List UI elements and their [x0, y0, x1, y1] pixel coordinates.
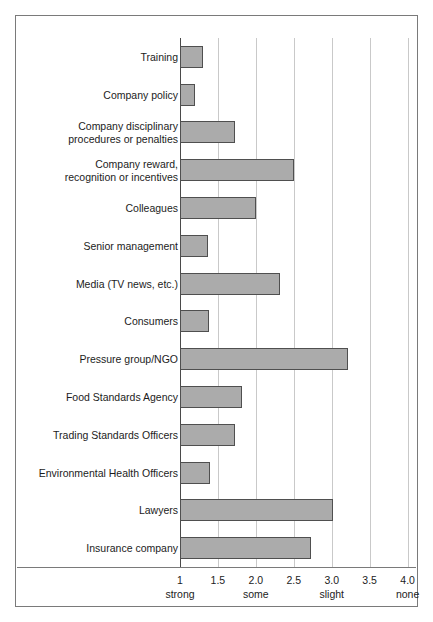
- category-label: Pressure group/NGO: [34, 353, 178, 366]
- category-label: Training: [34, 51, 178, 64]
- x-axis: 1strong1.52.0some2.53.0slight3.54.0none: [17, 567, 416, 607]
- plot-area: [180, 38, 419, 567]
- x-tick-value: 4.0: [378, 574, 433, 587]
- x-tick-word: none: [378, 587, 433, 601]
- x-tick-word: some: [226, 587, 286, 601]
- bar-series: [180, 38, 419, 567]
- bar: [180, 159, 294, 181]
- bar: [180, 84, 195, 106]
- category-label: Senior management: [34, 240, 178, 253]
- bar: [180, 348, 348, 370]
- bar: [180, 424, 235, 446]
- category-label: Food Standards Agency: [34, 391, 178, 404]
- bar: [180, 197, 256, 219]
- bar: [180, 310, 209, 332]
- category-label: Trading Standards Officers: [34, 429, 178, 442]
- category-label: Company disciplinary procedures or penal…: [34, 120, 178, 145]
- category-label: Colleagues: [34, 202, 178, 215]
- category-label: Company policy: [34, 88, 178, 101]
- category-label: Company reward, recognition or incentive…: [34, 158, 178, 183]
- category-label-column: TrainingCompany policyCompany disciplina…: [34, 38, 178, 567]
- bar: [180, 121, 235, 143]
- bar: [180, 499, 333, 521]
- bar: [180, 386, 242, 408]
- category-label: Insurance company: [34, 542, 178, 555]
- category-label: Lawyers: [34, 504, 178, 517]
- category-label: Media (TV news, etc.): [34, 277, 178, 290]
- bar: [180, 462, 210, 484]
- chart-figure: TrainingCompany policyCompany disciplina…: [0, 0, 433, 622]
- category-label: Environmental Health Officers: [34, 466, 178, 479]
- bar: [180, 273, 280, 295]
- bar: [180, 46, 203, 68]
- x-tick-4.0: 4.0none: [378, 574, 433, 601]
- category-label: Consumers: [34, 315, 178, 328]
- x-tick-word: slight: [302, 587, 362, 601]
- chart-frame: TrainingCompany policyCompany disciplina…: [15, 15, 418, 607]
- bar: [180, 537, 311, 559]
- bar: [180, 235, 208, 257]
- x-tick-word: strong: [150, 587, 210, 601]
